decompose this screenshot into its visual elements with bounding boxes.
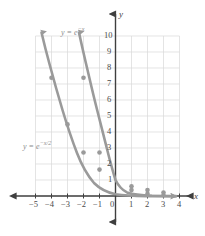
exponential-decay-graph: y x 10 9 8 7 6 5 4 3 2 1 −5 −4 −3 −2 −1 …: [0, 0, 205, 236]
y-tick-3: 3: [107, 143, 111, 152]
curve-label-exponent-1: −x: [78, 25, 85, 32]
y-tick-7: 7: [107, 79, 111, 88]
curve-label-exp-neg-x-over-2: y = e−x/2: [23, 140, 51, 151]
y-tick-1: 1: [108, 175, 112, 184]
x-tick-1: 1: [129, 200, 133, 209]
x-tick-2: 2: [145, 200, 149, 209]
x-tick-0: 0: [110, 200, 114, 209]
y-tick-4: 4: [107, 127, 111, 136]
curve-exp-neg-x: [79, 33, 176, 198]
x-tick-neg4: −4: [45, 200, 54, 209]
x-tick-neg3: −3: [61, 200, 70, 209]
x-tick-neg2: −2: [77, 200, 86, 209]
x-tick-neg5: −5: [29, 200, 38, 209]
x-tick-neg1: −1: [93, 200, 102, 209]
y-tick-6: 6: [107, 95, 111, 104]
curve-label-exp-neg-x: y = e−x: [61, 26, 84, 37]
y-tick-8: 8: [107, 63, 111, 72]
curve-label-base-1: y = e: [61, 28, 78, 37]
y-tick-9: 9: [107, 47, 111, 56]
curve-label-base-2: y = e: [23, 142, 40, 151]
x-tick-3: 3: [161, 200, 165, 209]
y-tick-5: 5: [107, 111, 111, 120]
y-tick-2: 2: [107, 159, 111, 168]
y-tick-10: 10: [104, 31, 113, 40]
y-axis-label: y: [119, 10, 123, 19]
x-axis-label: x: [194, 192, 198, 201]
x-tick-4: 4: [177, 200, 181, 209]
curve-label-exponent-2: −x/2: [40, 139, 52, 146]
